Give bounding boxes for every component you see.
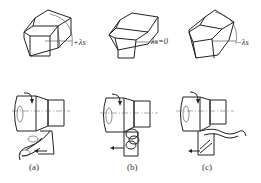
panel-b-caption: (b) xyxy=(127,162,138,172)
panel-c-turning-view: (c) xyxy=(176,92,246,172)
panel-c-caption: (c) xyxy=(202,162,212,172)
panel-a-caption: (a) xyxy=(29,162,39,172)
panel-a-turning-view: (a) xyxy=(12,93,70,172)
panel-c-tool-view: −λs xyxy=(189,10,249,58)
panel-c-angle-label: −λs xyxy=(236,37,249,47)
panel-a-angle-label: +λs xyxy=(73,37,86,47)
panel-b-angle-label: λs=0 xyxy=(150,36,169,46)
panel-b-tool-view: λs=0 xyxy=(109,13,169,58)
panel-a-tool-view: +λs xyxy=(24,10,86,56)
cutting-tool-inclination-diagram: +λs λs=0 −λs xyxy=(0,0,261,183)
panel-b-turning-view: (b) xyxy=(100,94,158,172)
